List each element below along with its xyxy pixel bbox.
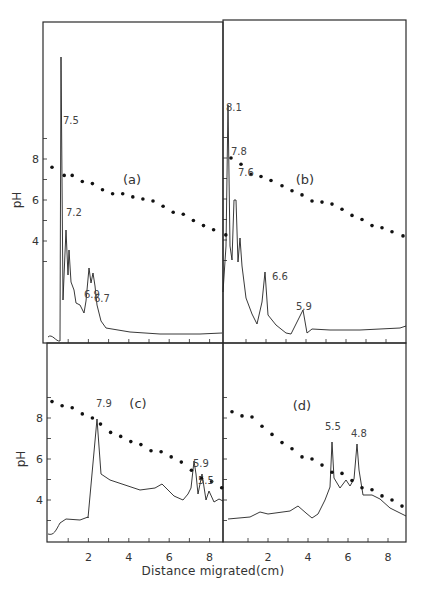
ph-dot — [310, 199, 314, 203]
ph-dot — [320, 463, 324, 467]
ph-dot — [350, 479, 354, 483]
absorbance-trace — [48, 57, 222, 341]
peak-label: 7.9 — [96, 398, 112, 409]
ph-dot — [300, 193, 304, 197]
peak-label: 6.7 — [94, 293, 110, 304]
ph-dot — [70, 406, 74, 410]
ph-dot — [310, 457, 314, 461]
ph-dot — [340, 208, 344, 212]
ph-dot — [161, 204, 165, 208]
ph-gradient-dots — [50, 156, 405, 508]
ph-dot — [50, 400, 54, 404]
peak-label: 7.6 — [238, 167, 254, 178]
x-tick-label: 6 — [345, 551, 352, 564]
ph-dot — [380, 226, 384, 230]
peak-label: 5.9 — [296, 301, 312, 312]
absorbance-trace — [223, 105, 406, 334]
ph-dot — [360, 218, 364, 222]
ph-dot — [224, 233, 228, 237]
figure-canvas: 46824684682468 7.57.26.96.78.17.87.66.65… — [0, 0, 426, 599]
axis-tick-labels: 46824684682468 — [32, 153, 392, 564]
panel-d-frame — [223, 343, 406, 542]
ph-dot — [81, 412, 85, 416]
ph-dot — [101, 188, 105, 192]
y-tick-label: 4 — [32, 235, 39, 248]
x-tick-label: 4 — [305, 551, 312, 564]
x-tick-label: 6 — [166, 551, 173, 564]
y-tick-label: 4 — [36, 494, 43, 507]
ph-dot — [151, 199, 155, 203]
ph-dot — [390, 498, 394, 502]
ph-dot — [270, 433, 274, 437]
absorbance-trace — [48, 419, 223, 534]
ph-dot — [240, 414, 244, 418]
ph-dot — [111, 192, 115, 196]
x-tick-label: 2 — [85, 551, 92, 564]
ph-dot — [300, 455, 304, 459]
ph-dot — [260, 424, 264, 428]
panel-title: (a) — [123, 172, 141, 187]
ph-dot — [121, 192, 125, 196]
x-tick-label: 2 — [265, 551, 272, 564]
y-tick-label: 8 — [36, 412, 43, 425]
ph-dot — [70, 174, 74, 178]
y-axis-title: pH — [14, 451, 28, 468]
ph-dot — [190, 469, 194, 473]
ph-dot — [62, 174, 66, 178]
ph-dot — [330, 202, 334, 206]
ph-dot — [400, 504, 404, 508]
panel-b-frame — [223, 20, 406, 343]
panel-title: (c) — [129, 396, 146, 411]
panel-c-frame — [47, 343, 223, 542]
ph-dot — [320, 200, 324, 204]
ph-dot — [131, 195, 135, 199]
x-tick-label: 4 — [125, 551, 132, 564]
y-axis-labels: pHpH — [10, 192, 28, 468]
panel-title: (d) — [293, 398, 311, 413]
ph-dot — [230, 410, 234, 414]
peak-label: 5.5 — [325, 421, 341, 432]
ph-dot — [290, 447, 294, 451]
ph-dot — [171, 211, 175, 215]
x-tick-label: 8 — [206, 551, 213, 564]
ph-dot — [340, 472, 344, 476]
ph-dot — [380, 494, 384, 498]
absorbance-trace — [228, 442, 406, 519]
panel-title: (b) — [296, 172, 314, 187]
ph-dot — [141, 197, 145, 201]
ph-dot — [169, 455, 173, 459]
ph-dot — [180, 460, 184, 464]
ph-dot — [182, 213, 186, 217]
ph-dot — [119, 435, 123, 439]
ph-dot — [202, 224, 206, 228]
ph-dot — [350, 214, 354, 218]
ph-dot — [149, 449, 153, 453]
ph-dot — [239, 162, 243, 166]
ph-dot — [250, 415, 254, 419]
peak-label: 8.1 — [226, 102, 242, 113]
peak-label: 5.9 — [193, 458, 209, 469]
ph-dot — [370, 488, 374, 492]
peak-label: 5.5 — [198, 475, 214, 486]
ph-dot — [91, 416, 95, 420]
panel-titles: (a)(b)(c)(d) — [123, 172, 314, 413]
y-tick-label: 6 — [36, 453, 43, 466]
ph-dot — [99, 422, 103, 426]
y-axis-title: pH — [10, 192, 24, 209]
ph-dot — [280, 184, 284, 188]
ph-dot — [91, 182, 95, 186]
x-tick-label: 8 — [385, 551, 392, 564]
y-tick-label: 8 — [32, 153, 39, 166]
peak-labels: 7.57.26.96.78.17.87.66.65.97.95.95.55.54… — [63, 102, 367, 486]
peak-label: 4.8 — [351, 428, 367, 439]
ph-dot — [81, 180, 85, 184]
ph-dot — [390, 230, 394, 234]
x-axis-title: Distance migrated(cm) — [0, 564, 426, 578]
ph-dot — [129, 440, 133, 444]
ph-dot — [370, 224, 374, 228]
peak-label: 7.2 — [66, 207, 82, 218]
ph-dot — [290, 189, 294, 193]
peak-label: 7.8 — [231, 146, 247, 157]
ph-dot — [220, 486, 224, 490]
ph-dot — [212, 228, 216, 232]
